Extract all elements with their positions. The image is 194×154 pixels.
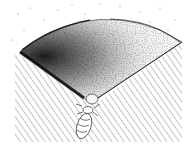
illustration: [0, 0, 194, 154]
illustration-svg: [0, 0, 194, 154]
